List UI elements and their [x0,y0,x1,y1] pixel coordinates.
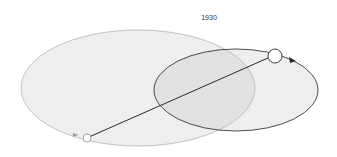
orbit-diagram [0,0,337,157]
small-node [83,134,91,142]
large-node [268,49,282,63]
